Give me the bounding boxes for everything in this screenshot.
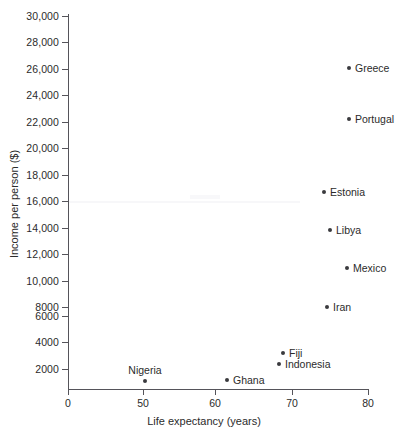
y-axis-title: Income per person ($) <box>8 104 20 304</box>
y-tick-mark <box>62 148 68 149</box>
y-tick-label: 12,000 <box>26 249 59 260</box>
x-axis-title: Life expectancy (years) <box>0 415 408 427</box>
data-point-label-portugal: Portugal <box>355 114 394 125</box>
y-tick-mark <box>62 316 68 317</box>
y-tick-label: 16,000 <box>26 196 59 207</box>
data-point-mexico <box>345 266 349 270</box>
data-point-fiji <box>281 351 285 355</box>
data-point-label-ghana: Ghana <box>233 375 265 386</box>
y-tick-label: 20,000 <box>26 143 59 154</box>
x-axis-line <box>68 389 369 390</box>
x-tick-label: 0 <box>65 398 71 409</box>
y-tick-mark <box>62 42 68 43</box>
scan-artifact <box>68 201 300 203</box>
y-tick-label: 26,000 <box>26 64 59 75</box>
x-tick-label: 60 <box>209 398 221 409</box>
y-tick-mark <box>62 228 68 229</box>
y-tick-label: 14,000 <box>26 223 59 234</box>
y-tick-label: 4000 <box>35 337 59 348</box>
y-tick-label: 30,000 <box>26 11 59 22</box>
scatter-plot-figure: 30,00028,00026,00024,00022,00020,00018,0… <box>0 0 408 438</box>
x-tick-mark <box>292 389 293 395</box>
data-point-estonia <box>322 190 326 194</box>
data-point-portugal <box>347 117 351 121</box>
y-tick-mark <box>62 95 68 96</box>
y-tick-label: 10,000 <box>26 276 59 287</box>
y-tick-mark <box>62 342 68 343</box>
y-tick-mark <box>62 122 68 123</box>
data-point-label-iran: Iran <box>333 302 351 313</box>
x-tick-label: 80 <box>362 398 374 409</box>
y-tick-label: 18,000 <box>26 170 59 181</box>
y-tick-label: 6000 <box>35 311 59 322</box>
data-point-ghana <box>225 378 229 382</box>
y-tick-label: 2000 <box>35 364 59 375</box>
data-point-label-indonesia: Indonesia <box>285 359 331 370</box>
y-tick-mark <box>62 201 68 202</box>
y-tick-mark <box>62 69 68 70</box>
y-tick-mark <box>62 254 68 255</box>
x-tick-mark <box>215 389 216 395</box>
y-axis-line <box>68 14 69 390</box>
y-tick-label: 24,000 <box>26 90 59 101</box>
data-point-nigeria <box>143 379 147 383</box>
x-tick-label: 50 <box>137 398 149 409</box>
y-tick-mark <box>62 175 68 176</box>
data-point-label-greece: Greece <box>355 63 389 74</box>
data-point-label-nigeria: Nigeria <box>128 365 161 376</box>
y-tick-mark <box>62 369 68 370</box>
data-point-label-libya: Libya <box>336 225 361 236</box>
x-tick-mark <box>68 389 69 395</box>
scan-artifact <box>190 195 220 199</box>
y-tick-mark <box>62 307 68 308</box>
data-point-iran <box>325 305 329 309</box>
data-point-label-estonia: Estonia <box>330 187 365 198</box>
y-tick-mark <box>62 16 68 17</box>
x-tick-label: 70 <box>286 398 298 409</box>
data-point-libya <box>328 228 332 232</box>
data-point-indonesia <box>277 362 281 366</box>
x-tick-mark <box>368 389 369 395</box>
data-point-greece <box>347 66 351 70</box>
y-tick-mark <box>62 281 68 282</box>
y-tick-label: 22,000 <box>26 117 59 128</box>
x-tick-mark <box>143 389 144 395</box>
data-point-label-mexico: Mexico <box>353 263 386 274</box>
y-tick-label: 28,000 <box>26 37 59 48</box>
